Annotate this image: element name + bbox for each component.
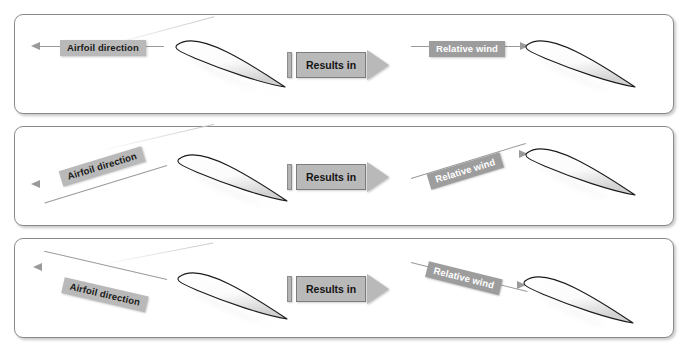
results-in-bar — [287, 164, 292, 190]
airfoil-relative-wind-figure: Airfoil direction — [0, 0, 688, 356]
label-airfoil-direction: Airfoil direction — [59, 146, 146, 186]
label-relative-wind: Relative wind — [427, 152, 504, 190]
airfoil-direction-arrowhead-icon — [33, 263, 42, 271]
airfoil-direction-arrowhead-icon — [31, 180, 40, 188]
results-in-bar — [287, 276, 292, 302]
airfoil-right — [509, 265, 669, 337]
results-in-tip-icon — [367, 162, 389, 192]
label-relative-wind: Relative wind — [429, 41, 505, 57]
label-airfoil-direction: Airfoil direction — [61, 277, 148, 312]
airfoil-right — [511, 29, 671, 101]
panel-descent: Airfoil direction Results in Relative wi… — [14, 126, 674, 226]
results-in-label: Results in — [296, 164, 366, 190]
results-in-tip-icon — [367, 50, 389, 80]
results-in-label: Results in — [296, 52, 366, 78]
airfoil-right — [511, 137, 671, 209]
panel-level-flight: Airfoil direction — [14, 14, 674, 114]
results-in-tip-icon — [367, 274, 389, 304]
results-in-arrow: Results in — [287, 50, 389, 80]
panel-climb: Airfoil direction Results in Relative wi… — [14, 238, 674, 338]
airfoil-direction-arrowhead-icon — [31, 42, 40, 50]
results-in-arrow: Results in — [287, 162, 389, 192]
label-airfoil-direction: Airfoil direction — [60, 40, 146, 56]
label-relative-wind: Relative wind — [425, 261, 503, 295]
results-in-label: Results in — [296, 276, 366, 302]
results-in-arrow: Results in — [287, 274, 389, 304]
results-in-bar — [287, 52, 292, 78]
